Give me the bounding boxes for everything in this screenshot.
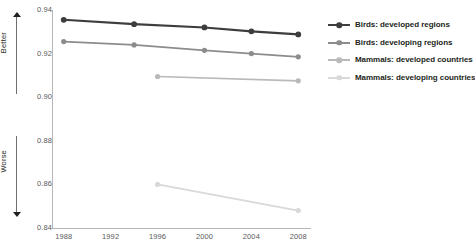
series-1 bbox=[61, 39, 301, 59]
legend-label: Mammals: developed countries bbox=[355, 56, 473, 64]
data-point bbox=[296, 54, 301, 59]
legend-marker-icon bbox=[328, 20, 350, 30]
data-point bbox=[61, 39, 66, 44]
legend-item[interactable]: Birds: developing regions bbox=[328, 36, 475, 50]
legend: Birds: developed regionsBirds: developin… bbox=[328, 18, 475, 88]
data-point bbox=[249, 51, 254, 56]
legend-marker-icon bbox=[328, 55, 350, 65]
better-axis-line bbox=[16, 17, 17, 94]
y-tick-label: 0.86 bbox=[37, 180, 52, 188]
data-point bbox=[296, 78, 301, 83]
worse-axis-line bbox=[16, 136, 17, 212]
series-3 bbox=[155, 182, 301, 213]
y-tick-label: 0.94 bbox=[37, 6, 52, 14]
x-tick-label: 1992 bbox=[102, 233, 119, 241]
data-point bbox=[155, 74, 160, 79]
series-line bbox=[64, 42, 299, 57]
better-label: Better bbox=[0, 32, 8, 53]
data-point bbox=[248, 28, 254, 34]
data-point bbox=[296, 208, 301, 213]
legend-label: Birds: developed regions bbox=[355, 21, 450, 29]
better-annotation: Better bbox=[0, 12, 24, 94]
legend-marker-icon bbox=[328, 73, 350, 83]
legend-marker-icon bbox=[328, 38, 350, 48]
legend-dot bbox=[336, 22, 342, 28]
y-tick-label: 0.92 bbox=[37, 50, 52, 58]
legend-dot bbox=[336, 75, 342, 81]
plot-area bbox=[52, 10, 310, 228]
data-point bbox=[131, 42, 136, 47]
worse-arrow-icon bbox=[13, 212, 21, 217]
data-point bbox=[202, 48, 207, 53]
x-tick-label: 2000 bbox=[196, 233, 213, 241]
worse-label: Worse bbox=[0, 150, 8, 173]
series-0 bbox=[61, 17, 301, 37]
series-2 bbox=[155, 74, 301, 84]
chart-container: Better Worse 0.940.920.900.880.860.84 19… bbox=[0, 0, 475, 250]
worse-annotation: Worse bbox=[0, 136, 24, 218]
y-tick-label: 0.88 bbox=[37, 137, 52, 145]
y-axis-ticks: 0.940.920.900.880.860.84 bbox=[22, 0, 52, 250]
x-axis-line bbox=[52, 228, 311, 229]
legend-dot bbox=[336, 57, 342, 63]
legend-label: Birds: developing regions bbox=[355, 39, 452, 47]
series-line bbox=[158, 76, 299, 80]
data-point bbox=[61, 17, 67, 23]
series-line bbox=[64, 20, 299, 35]
y-tick-label: 0.84 bbox=[37, 224, 52, 232]
legend-dot bbox=[336, 40, 342, 46]
data-point bbox=[131, 21, 137, 27]
x-tick-label: 1988 bbox=[55, 233, 72, 241]
x-tick-label: 1996 bbox=[149, 233, 166, 241]
legend-item[interactable]: Mammals: developed countries bbox=[328, 53, 475, 67]
series-layer bbox=[52, 10, 310, 228]
legend-item[interactable]: Mammals: developing countries bbox=[328, 71, 475, 85]
series-line bbox=[158, 184, 299, 210]
legend-label: Mammals: developing countries bbox=[355, 74, 475, 82]
y-tick-label: 0.90 bbox=[37, 93, 52, 101]
x-tick-label: 2004 bbox=[243, 233, 260, 241]
data-point bbox=[295, 32, 301, 38]
data-point bbox=[155, 182, 160, 187]
data-point bbox=[202, 25, 208, 31]
legend-item[interactable]: Birds: developed regions bbox=[328, 18, 475, 32]
x-tick-label: 2008 bbox=[290, 233, 307, 241]
